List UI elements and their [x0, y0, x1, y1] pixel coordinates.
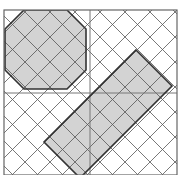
diagram-canvas: [0, 0, 181, 175]
diagram-svg: [0, 0, 181, 175]
hatch-line: [0, 0, 181, 8]
octagon-fill: [5, 10, 86, 89]
